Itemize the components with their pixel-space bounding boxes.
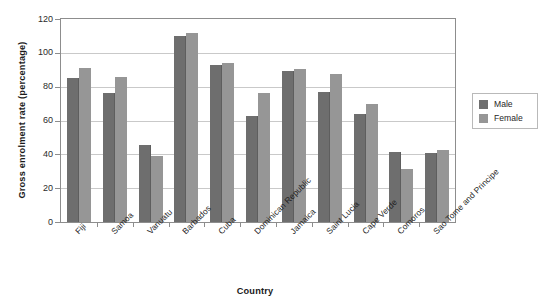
legend-swatch-male bbox=[479, 100, 488, 109]
bar-group bbox=[139, 19, 163, 222]
bar-chart: Gross enrolment rate (percentage) 120100… bbox=[0, 0, 553, 308]
legend-item-female: Female bbox=[479, 113, 532, 123]
bar-male bbox=[425, 153, 437, 222]
legend-swatch-female bbox=[479, 114, 488, 123]
x-tick-mark bbox=[169, 223, 170, 227]
bar-female bbox=[115, 77, 127, 223]
y-tick-mark bbox=[55, 154, 60, 155]
bar-female bbox=[330, 74, 342, 222]
y-tick-mark bbox=[55, 87, 60, 88]
bar-male bbox=[174, 36, 186, 222]
bar-male bbox=[246, 116, 258, 222]
x-tick-mark bbox=[312, 223, 313, 227]
y-tick-mark bbox=[55, 53, 60, 54]
bar-male bbox=[67, 78, 79, 222]
x-tick-mark bbox=[204, 223, 205, 227]
bar-group bbox=[103, 19, 127, 222]
bar-male bbox=[139, 145, 151, 222]
x-tick-mark bbox=[419, 223, 420, 227]
bar-female bbox=[258, 93, 270, 222]
bar-male bbox=[318, 92, 330, 222]
bar-group bbox=[67, 19, 91, 222]
y-tick-mark bbox=[55, 19, 60, 20]
bar-group bbox=[389, 19, 413, 222]
bar-female bbox=[79, 68, 91, 222]
y-tick-label: 40 bbox=[5, 149, 53, 159]
y-tick-label: 0 bbox=[5, 217, 53, 227]
legend-label-female: Female bbox=[494, 113, 523, 123]
legend-label-male: Male bbox=[494, 99, 513, 109]
bar-group bbox=[318, 19, 342, 222]
bar-female bbox=[186, 33, 198, 222]
bar-group bbox=[246, 19, 270, 222]
bar-group bbox=[425, 19, 449, 222]
chart-legend: Male Female bbox=[472, 93, 538, 129]
y-tick-mark bbox=[55, 222, 60, 223]
y-tick-label: 80 bbox=[5, 81, 53, 91]
y-tick-label: 100 bbox=[5, 47, 53, 57]
y-tick-mark bbox=[55, 188, 60, 189]
x-axis-title: Country bbox=[180, 286, 330, 296]
bar-group bbox=[354, 19, 378, 222]
x-tick-mark bbox=[276, 223, 277, 227]
bar-series-layer bbox=[61, 19, 455, 222]
bar-male bbox=[210, 65, 222, 222]
x-category-label: Fiji bbox=[73, 221, 88, 236]
x-tick-mark bbox=[348, 223, 349, 227]
y-tick-label: 20 bbox=[5, 183, 53, 193]
bar-group bbox=[210, 19, 234, 222]
y-tick-label: 60 bbox=[5, 115, 53, 125]
x-tick-mark bbox=[240, 223, 241, 227]
x-tick-mark bbox=[97, 223, 98, 227]
x-tick-mark bbox=[133, 223, 134, 227]
x-tick-mark bbox=[383, 223, 384, 227]
bar-female bbox=[366, 104, 378, 222]
bar-group bbox=[174, 19, 198, 222]
y-tick-label: 120 bbox=[5, 14, 53, 24]
y-tick-mark bbox=[55, 121, 60, 122]
bar-female bbox=[222, 63, 234, 222]
bar-male bbox=[103, 93, 115, 222]
legend-item-male: Male bbox=[479, 99, 532, 109]
